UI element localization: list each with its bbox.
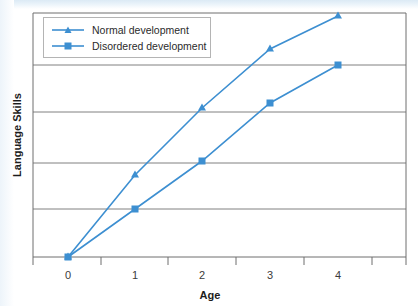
legend-label-disordered: Disordered development [92,40,206,52]
x-tick-label-4: 4 [335,269,341,281]
chart-svg: 0 1 2 3 4 Age Language Skills [0,0,418,306]
x-tick-label-1: 1 [132,269,138,281]
x-tick-label-0: 0 [65,269,71,281]
x-tick-label-2: 2 [199,269,205,281]
series-disordered-point-0 [65,254,72,261]
series-disordered-point-3 [267,100,274,107]
legend-label-normal: Normal development [92,24,189,36]
x-axis-title: Age [200,289,221,301]
series-disordered-point-4 [335,62,342,69]
x-tick-label-3: 3 [267,269,273,281]
x-axis-ticks [33,257,406,265]
series-disordered-point-2 [199,158,206,165]
square-marker-icon [65,43,72,50]
y-axis-title: Language Skills [11,93,23,177]
line-chart: 0 1 2 3 4 Age Language Skills [0,0,418,306]
chart-legend: Normal development Disordered developmen… [44,18,211,58]
x-tick-labels: 0 1 2 3 4 [65,269,341,281]
series-disordered-point-1 [132,206,139,213]
